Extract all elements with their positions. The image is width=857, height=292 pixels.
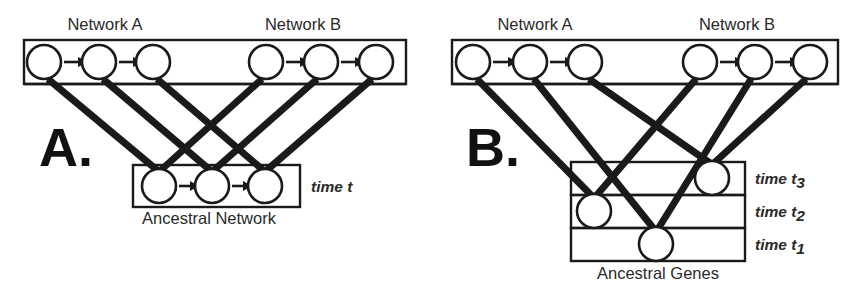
node-a-top-1[interactable] (27, 45, 61, 79)
panel-a-ancestral-network-caption: Ancestral Network (142, 209, 277, 227)
panel-a-network-a-label: Network A (67, 15, 142, 33)
figure-root: Network A Network B (0, 0, 857, 292)
node-a-top-6[interactable] (359, 45, 393, 79)
node-b-top-3[interactable] (568, 45, 602, 79)
node-b-gene-t1[interactable] (639, 227, 673, 261)
node-a-bot-2[interactable] (195, 169, 229, 203)
node-a-bot-1[interactable] (142, 169, 176, 203)
panel-a-network-b-label: Network B (265, 15, 341, 33)
panel-a-time-label: time t (311, 178, 353, 195)
panel-a-top-nodes (27, 45, 393, 79)
node-b-top-6[interactable] (793, 45, 827, 79)
node-b-top-5[interactable] (738, 45, 772, 79)
edge-a-top2-bot2 (103, 79, 210, 170)
node-b-gene-t2[interactable] (577, 194, 611, 228)
panel-b-time-t1-label: time t1 (755, 236, 805, 257)
panel-a-lineage-edges (48, 79, 372, 170)
panel-a-bottom-nodes (142, 169, 282, 203)
panel-b-time-t3-label: time t3 (755, 170, 805, 191)
panel-b-time-labels: time t3 time t2 time t1 (755, 170, 805, 257)
node-a-top-3[interactable] (136, 45, 170, 79)
node-b-top-4[interactable] (683, 45, 717, 79)
panel-b-ancestral-gene-nodes (577, 161, 729, 261)
edge-b-top5-gene-t1 (658, 79, 751, 229)
panel-b-network-a-label: Network A (497, 15, 572, 33)
node-b-gene-t3[interactable] (695, 161, 729, 195)
panel-b: Network A Network B (427, 0, 857, 292)
panel-b-letter: B. (466, 117, 520, 177)
node-b-top-2[interactable] (513, 45, 547, 79)
edge-a-top6-bot3 (267, 79, 372, 170)
panel-b-ancestral-genes-caption: Ancestral Genes (597, 264, 719, 282)
node-a-top-2[interactable] (82, 45, 116, 79)
panel-a: Network A Network B (0, 0, 427, 292)
panel-b-time-t2-label: time t2 (755, 203, 805, 224)
node-a-bot-3[interactable] (248, 169, 282, 203)
edge-b-top3-gene-t3 (589, 79, 710, 163)
node-b-top-1[interactable] (456, 45, 490, 79)
node-a-top-5[interactable] (304, 45, 338, 79)
node-a-top-4[interactable] (249, 45, 283, 79)
panel-a-letter: A. (39, 117, 93, 177)
panel-b-network-b-label: Network B (699, 15, 775, 33)
edge-a-top5-bot2 (214, 79, 317, 170)
